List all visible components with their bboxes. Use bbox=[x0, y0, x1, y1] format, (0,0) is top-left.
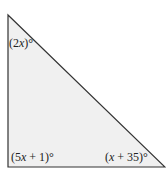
angle-label-top: (2x)° bbox=[9, 36, 33, 50]
angle-label-bottom-right: (x + 35)° bbox=[105, 150, 148, 164]
triangle-diagram: (2x)° (5x + 1)° (x + 35)° bbox=[0, 0, 166, 178]
angle-label-bottom-left: (5x + 1)° bbox=[11, 150, 54, 164]
